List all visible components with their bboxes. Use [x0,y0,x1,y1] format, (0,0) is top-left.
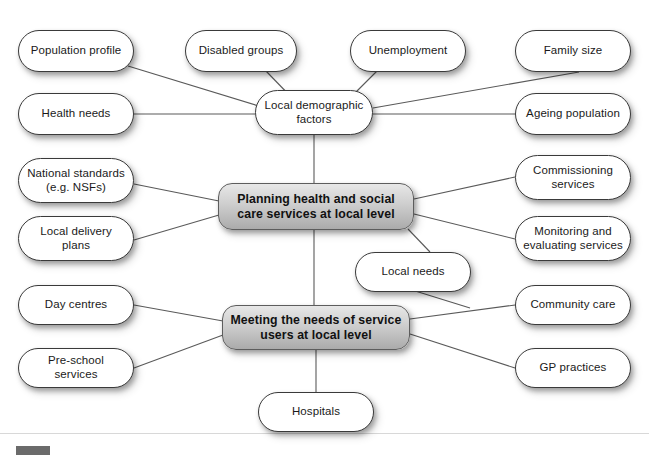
edge-planning-to-monitoring [414,214,515,239]
concept-map-diagram: Population profile Disabled groups Unemp… [0,0,649,455]
node-label-pre-school-services: Pre-school services [19,354,133,381]
footer-divider [0,433,649,434]
node-label-health-needs: Health needs [35,107,118,121]
node-label-hospitals: Hospitals [285,405,347,419]
node-label-day-centres: Day centres [38,298,114,312]
node-pre-school-services[interactable]: Pre-school services [18,348,134,388]
node-label-meeting-core: Meeting the needs of service users at lo… [223,313,409,342]
node-label-population-profile: Population profile [24,44,129,58]
edge-national-standards-to-planning [134,184,219,201]
node-meeting-core[interactable]: Meeting the needs of service users at lo… [222,305,410,350]
node-ageing-population[interactable]: Ageing population [515,93,631,135]
node-family-size[interactable]: Family size [515,30,631,72]
node-disabled-groups[interactable]: Disabled groups [185,30,297,72]
node-label-ageing-population: Ageing population [519,107,627,121]
node-hospitals[interactable]: Hospitals [258,392,374,432]
node-unemployment[interactable]: Unemployment [350,30,466,72]
node-local-demographic-factors[interactable]: Local demographic factors [255,90,373,135]
node-label-gp-practices: GP practices [533,361,614,375]
node-label-unemployment: Unemployment [362,44,455,58]
edge-population-profile-to-demographic [128,66,262,107]
edge-meeting-to-community-care [410,305,515,319]
edge-pre-school-to-meeting [134,335,223,368]
node-label-local-needs: Local needs [374,265,451,279]
node-population-profile[interactable]: Population profile [18,30,134,72]
edge-day-centres-to-meeting [134,305,223,321]
node-label-planning-core: Planning health and social care services… [219,192,413,221]
edge-local-delivery-plans-to-planning [134,215,219,240]
node-local-delivery-plans[interactable]: Local delivery plans [18,216,134,261]
node-health-needs[interactable]: Health needs [18,93,134,135]
edge-planning-to-commissioning [414,177,515,199]
node-commissioning-services[interactable]: Commissioning services [515,155,631,200]
node-community-care[interactable]: Community care [515,285,631,325]
node-monitoring-evaluating-services[interactable]: Monitoring and evaluating services [515,216,631,261]
footer-marker-bar [16,446,50,455]
node-label-monitoring-evaluating-services: Monitoring and evaluating services [516,225,630,252]
node-planning-core[interactable]: Planning health and social care services… [218,183,414,230]
node-label-family-size: Family size [537,44,610,58]
node-label-national-standards: National standards (e.g. NSFs) [19,167,133,194]
edge-local-needs-to-meeting [412,290,470,308]
cropped-header-text [60,0,360,4]
node-label-local-demographic-factors: Local demographic factors [256,99,372,126]
node-day-centres[interactable]: Day centres [18,285,134,325]
edge-planning-to-local-needs [408,229,430,252]
node-gp-practices[interactable]: GP practices [515,348,631,388]
edge-meeting-to-gp-practices [410,334,515,368]
node-label-commissioning-services: Commissioning services [516,164,630,191]
node-local-needs[interactable]: Local needs [355,252,471,292]
node-label-local-delivery-plans: Local delivery plans [19,225,133,252]
node-label-community-care: Community care [523,298,622,312]
node-national-standards[interactable]: National standards (e.g. NSFs) [18,158,134,203]
node-label-disabled-groups: Disabled groups [192,44,291,58]
